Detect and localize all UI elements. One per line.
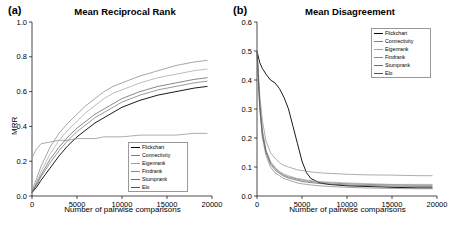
legend-swatch-icon (374, 73, 383, 74)
legend-swatch-icon (374, 49, 383, 50)
legend-label: Findrank (385, 53, 405, 61)
legend-swatch-icon (374, 41, 383, 42)
panel-a-plot: 050001000015000200000.00.20.40.60.81.0 (0, 0, 225, 227)
panel-b-legend: FlickchartConnectivityEigenrankFindrankS… (371, 28, 431, 78)
legend-label: Stumprank (142, 175, 167, 183)
legend-item: Flickchart (372, 29, 430, 37)
legend-label: Connectivity (142, 151, 170, 159)
svg-text:0.4: 0.4 (242, 76, 252, 85)
panel-b: (b) Mean Disagreement 050001000015000200… (225, 0, 450, 227)
svg-text:0: 0 (30, 200, 34, 209)
legend-swatch-icon (131, 147, 140, 148)
legend-label: Findrank (142, 167, 162, 175)
legend-item: Eigenrank (129, 159, 187, 167)
legend-label: Eigenrank (142, 159, 165, 167)
svg-text:0.1: 0.1 (242, 163, 252, 172)
svg-text:0.5: 0.5 (242, 47, 252, 56)
legend-label: Connectivity (385, 37, 413, 45)
legend-swatch-icon (374, 65, 383, 66)
legend-swatch-icon (131, 155, 140, 156)
svg-text:0.2: 0.2 (242, 134, 252, 143)
legend-swatch-icon (131, 163, 140, 164)
legend-label: Elo (385, 69, 393, 77)
legend-item: Findrank (372, 53, 430, 61)
svg-text:0.3: 0.3 (242, 105, 252, 114)
panel-a-ylabel: MRR (10, 117, 19, 135)
legend-swatch-icon (374, 33, 383, 34)
legend-item: Eigenrank (372, 45, 430, 53)
legend-item: Connectivity (129, 151, 187, 159)
legend-item: Connectivity (372, 37, 430, 45)
svg-text:0.2: 0.2 (17, 157, 27, 166)
legend-item: Stumprank (129, 175, 187, 183)
panel-a-legend: FlickchartConnectivityEigenrankFindrankS… (128, 142, 188, 192)
legend-item: Flickchart (129, 143, 187, 151)
legend-swatch-icon (131, 171, 140, 172)
svg-text:1.0: 1.0 (17, 18, 27, 27)
legend-item: Stumprank (372, 61, 430, 69)
svg-text:0.6: 0.6 (242, 18, 252, 27)
legend-swatch-icon (374, 57, 383, 58)
panel-a-xlabel: Number of pairwise comparisons (35, 205, 210, 214)
svg-text:0.8: 0.8 (17, 52, 27, 61)
legend-label: Elo (142, 183, 150, 191)
svg-text:0.0: 0.0 (242, 192, 252, 201)
svg-text:0.0: 0.0 (17, 192, 27, 201)
panel-b-xlabel: Number of pairwise comparisons (260, 205, 435, 214)
legend-item: Elo (129, 183, 187, 191)
legend-label: Flickchart (385, 29, 407, 37)
figure-root: (a) Mean Reciprocal Rank 050001000015000… (0, 0, 450, 227)
legend-label: Flickchart (142, 143, 164, 151)
legend-label: Eigenrank (385, 45, 408, 53)
panel-a: (a) Mean Reciprocal Rank 050001000015000… (0, 0, 225, 227)
legend-item: Findrank (129, 167, 187, 175)
legend-swatch-icon (131, 179, 140, 180)
legend-swatch-icon (131, 187, 140, 188)
svg-text:0: 0 (255, 200, 259, 209)
legend-item: Elo (372, 69, 430, 77)
svg-text:0.6: 0.6 (17, 87, 27, 96)
legend-label: Stumprank (385, 61, 410, 69)
